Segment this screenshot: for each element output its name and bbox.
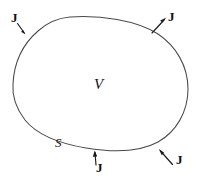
flux-arrow-top-right-head — [160, 18, 166, 23]
flux-arrow-bottom-right — [159, 149, 173, 165]
current-label-bottom-middle: J — [96, 161, 103, 174]
flux-arrow-bottom-middle-head — [93, 151, 97, 157]
flux-arrow-top-left-head — [21, 30, 26, 34]
surface-label: S — [55, 136, 62, 149]
flux-arrow-top-left — [18, 24, 26, 35]
current-label-top-right: J — [168, 10, 175, 23]
volume-label: V — [94, 77, 103, 92]
figure-container: J J J J V S — [0, 0, 200, 179]
flux-arrow-top-right — [152, 18, 167, 34]
current-label-bottom-right: J — [176, 153, 183, 166]
current-label-top-left: J — [11, 11, 18, 24]
